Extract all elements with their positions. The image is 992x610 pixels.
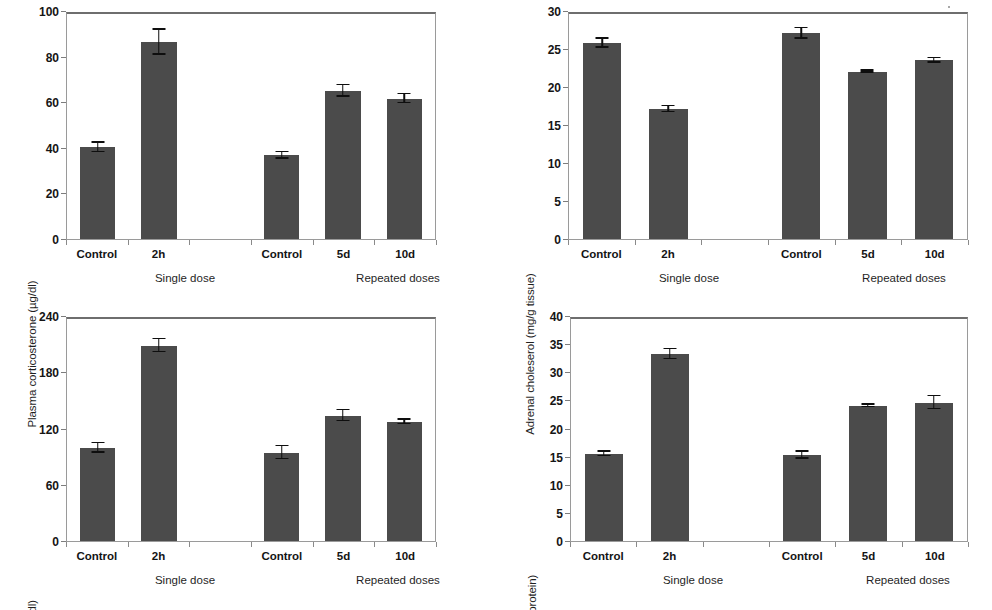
x-axis-label: Control <box>66 248 128 260</box>
error-bar-cap-upper <box>398 93 411 95</box>
error-bar-cap-upper <box>91 442 104 444</box>
error-bar-cap-lower <box>927 408 940 410</box>
x-axis-label: 5d <box>313 550 375 562</box>
bar-slot <box>834 13 900 239</box>
y-tick-mark <box>565 457 570 458</box>
y-tick-mark <box>565 372 570 373</box>
x-tick-mark <box>189 542 190 547</box>
x-axis-label: Control <box>570 550 636 562</box>
x-tick-mark <box>313 240 314 245</box>
error-bar-cap-lower <box>152 53 165 55</box>
y-tick-label: 180 <box>39 365 59 381</box>
error-bar-cap-lower <box>597 455 610 457</box>
error-bar-cap-lower <box>663 358 676 360</box>
x-axis-labels: Control2hControl5d10d <box>66 248 436 260</box>
x-tick-mark <box>768 240 769 245</box>
bar-slot <box>251 318 312 541</box>
x-axis-label: 5d <box>835 550 901 562</box>
y-tick-label: 15 <box>550 450 563 466</box>
bar-series <box>569 13 967 239</box>
error-bar-cap-upper <box>336 84 349 86</box>
y-tick-label: 100 <box>39 4 59 20</box>
error-bar <box>158 30 160 55</box>
error-bar-cap-upper <box>795 27 808 29</box>
bar-slot <box>635 13 701 239</box>
y-tick-mark <box>565 344 570 345</box>
error-bar-cap-upper <box>398 418 411 420</box>
y-tick-label: 0 <box>52 534 59 550</box>
x-tick-mark <box>968 240 969 245</box>
scan-artifact-speck <box>948 6 950 8</box>
error-bar-cap-upper <box>152 338 165 340</box>
x-axis-labels: Control2hControl5d10d <box>66 550 436 562</box>
bar-slot <box>374 318 435 541</box>
y-axis-ticks: 020406080100 <box>0 12 66 240</box>
bar-slot <box>769 318 835 541</box>
panel-adrenal-cholesterol: Adrenal choleserol (mg/g tissue)05101520… <box>496 0 992 305</box>
y-axis-ticks: 0510152025303540 <box>496 317 570 542</box>
y-tick-mark <box>565 429 570 430</box>
y-tick-mark <box>565 316 570 317</box>
y-tick-label: 20 <box>550 422 563 438</box>
x-axis-labels: Control2hControl5d10d <box>568 248 968 260</box>
y-tick-label: 20 <box>46 186 59 202</box>
x-tick-mark <box>568 240 569 245</box>
error-bar-cap-lower <box>91 151 104 153</box>
x-axis-label: 2h <box>636 550 702 562</box>
error-bar-cap-upper <box>596 37 609 39</box>
group-label: Single dose <box>110 272 260 284</box>
y-tick-mark <box>563 163 568 164</box>
x-axis-label: 2h <box>128 550 190 562</box>
x-tick-mark <box>968 542 969 547</box>
y-tick-mark <box>61 11 66 12</box>
x-axis-ticks <box>66 542 436 547</box>
x-tick-mark <box>313 542 314 547</box>
error-bar-cap-upper <box>795 450 808 452</box>
error-bar-cap-lower <box>795 457 808 459</box>
panel-plasma-corticosterone: Plasma corticosterone (µg/dl)02040608010… <box>0 0 496 305</box>
bar-slot <box>835 318 901 541</box>
x-axis-label: 5d <box>835 248 902 260</box>
error-bar-cap-upper <box>662 105 675 107</box>
x-tick-mark <box>835 542 836 547</box>
y-tick-mark <box>61 57 66 58</box>
y-tick-mark <box>61 372 66 373</box>
x-axis-label: Control <box>251 550 313 562</box>
y-tick-label: 120 <box>39 422 59 438</box>
x-axis-ticks <box>568 240 968 245</box>
bar <box>585 454 623 541</box>
group-label: Single dose <box>618 574 768 586</box>
y-tick-mark <box>565 485 570 486</box>
x-axis-labels: Control2hControl5d10d <box>570 550 968 562</box>
bar <box>325 416 361 541</box>
y-tick-label: 20 <box>548 80 561 96</box>
error-bar-cap-upper <box>152 28 165 30</box>
error-bar-cap-upper <box>336 409 349 411</box>
x-axis-label: 10d <box>374 248 436 260</box>
y-tick-mark <box>563 49 568 50</box>
y-tick-mark <box>563 11 568 12</box>
x-tick-mark <box>635 240 636 245</box>
y-tick-label: 25 <box>548 42 561 58</box>
bar-slot-empty <box>702 13 768 239</box>
y-tick-label: 15 <box>548 118 561 134</box>
y-tick-label: 10 <box>548 156 561 172</box>
y-axis-ticks: 051015202530 <box>496 12 568 240</box>
bar-series <box>67 318 435 541</box>
bar-slot <box>569 13 635 239</box>
error-bar-cap-lower <box>662 111 675 113</box>
y-tick-mark <box>61 316 66 317</box>
bar-slot <box>312 13 373 239</box>
group-label: Single dose <box>614 272 764 284</box>
x-axis-label: Control <box>568 248 635 260</box>
y-tick-label: 5 <box>554 194 561 210</box>
y-tick-label: 30 <box>548 4 561 20</box>
error-bar-cap-lower <box>927 61 940 63</box>
error-bar-cap-lower <box>336 95 349 97</box>
bar <box>783 455 821 541</box>
bar <box>915 403 953 541</box>
x-tick-mark <box>701 240 702 245</box>
x-axis-label: Control <box>769 550 835 562</box>
error-bar-cap-upper <box>275 445 288 447</box>
error-bar-cap-lower <box>152 351 165 353</box>
